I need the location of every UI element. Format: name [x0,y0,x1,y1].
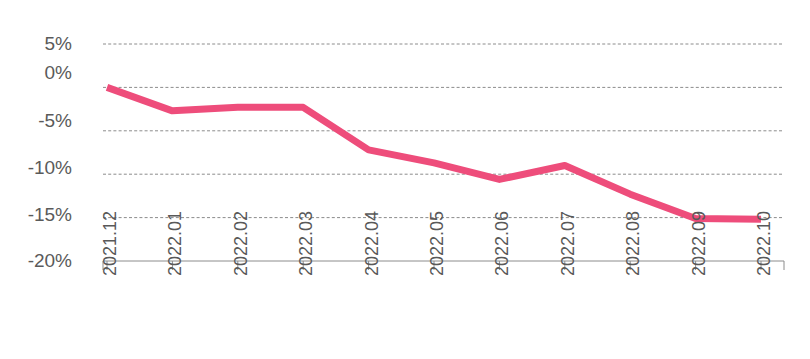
y-tick-label: 5% [45,33,72,55]
plot-area [84,0,810,359]
line-chart: 5% 0% -5% -10% -15% -20% 2021.122022.012… [0,0,810,359]
data-series-lines [107,87,761,219]
y-axis: 5% 0% -5% -10% -15% -20% [0,0,84,359]
y-tick-label: -15% [28,204,72,226]
chart-plot-svg [84,0,810,359]
data-line [107,87,761,219]
y-tick-label: -5% [38,110,72,132]
y-tick-label: -10% [28,157,72,179]
y-tick-label: 0% [45,62,72,84]
x-axis-ticks [103,261,784,270]
y-tick-label: -20% [28,250,72,272]
gridlines [103,44,784,261]
